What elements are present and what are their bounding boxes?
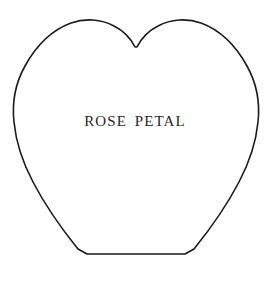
rose-petal-shape	[0, 0, 270, 282]
petal-outline-path	[13, 20, 258, 254]
drawing-canvas: ROSE PETAL	[0, 0, 270, 282]
petal-label: ROSE PETAL	[0, 112, 270, 130]
